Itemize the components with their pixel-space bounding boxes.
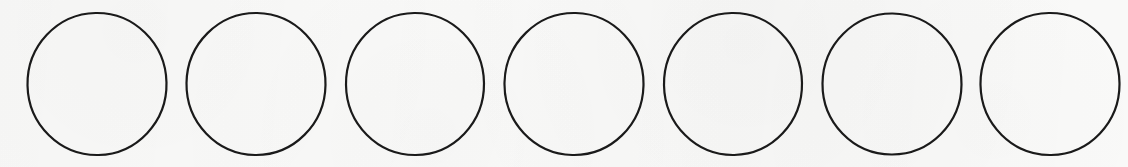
circle-3	[345, 12, 484, 155]
circle-row-diagram	[0, 0, 1128, 167]
circle-7	[979, 12, 1120, 156]
circles-group	[26, 11, 1121, 156]
circle-5	[663, 12, 803, 156]
circle-4	[503, 11, 645, 156]
circle-2	[186, 12, 327, 156]
circle-1	[26, 12, 168, 157]
figure-canvas	[0, 0, 1128, 167]
circle-6	[822, 13, 962, 155]
